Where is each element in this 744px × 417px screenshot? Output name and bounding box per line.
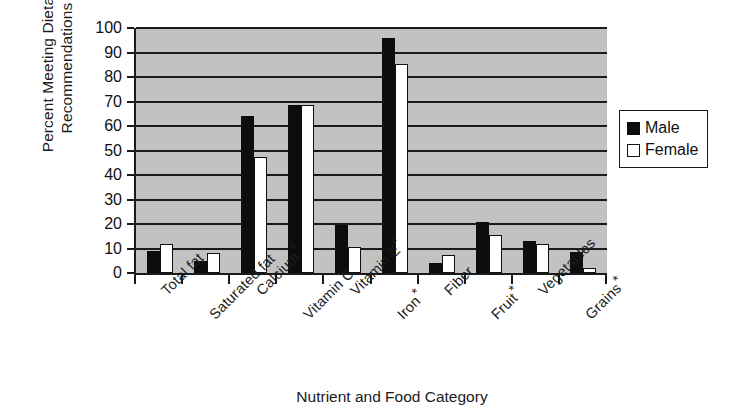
- legend-label-female: Female: [645, 142, 698, 158]
- gridline-20: [136, 223, 607, 225]
- y-tick-label-50: 50: [78, 143, 122, 159]
- x-tick-mark-6: [417, 275, 419, 284]
- bar-female-1: [207, 253, 220, 273]
- y-tick-label-100: 100: [78, 20, 122, 36]
- x-category-label-7: Fruit*: [488, 286, 525, 323]
- legend-item-female[interactable]: Female: [627, 139, 698, 161]
- bar-female-6: [442, 255, 455, 273]
- y-tick-label-40: 40: [78, 167, 122, 183]
- y-tick-label-20: 20: [78, 216, 122, 232]
- bar-female-3: [301, 105, 314, 273]
- gridline-80: [136, 76, 607, 78]
- chart-legend: Male Female: [619, 110, 708, 168]
- x-tick-mark-4: [322, 275, 324, 284]
- y-tick-mark-90: [127, 52, 134, 54]
- gridline-90: [136, 52, 607, 54]
- x-category-label-5: Iron*: [394, 289, 428, 323]
- legend-swatch-female-icon: [627, 144, 640, 157]
- x-tick-mark-0: [134, 275, 136, 284]
- bar-male-6: [429, 263, 442, 273]
- gridline-30: [136, 199, 607, 201]
- bar-female-7: [489, 235, 502, 273]
- y-tick-mark-30: [127, 199, 134, 201]
- gridline-50: [136, 150, 607, 152]
- gridline-70: [136, 101, 607, 103]
- gridline-40: [136, 174, 607, 176]
- y-tick-label-10: 10: [78, 241, 122, 257]
- x-tick-mark-2: [228, 275, 230, 284]
- y-tick-label-90: 90: [78, 45, 122, 61]
- bar-male-2: [241, 116, 254, 273]
- x-tick-mark-10: [605, 275, 607, 284]
- legend-swatch-male-icon: [627, 122, 640, 135]
- y-tick-mark-100: [127, 27, 134, 29]
- y-tick-mark-0: [127, 272, 134, 274]
- y-tick-label-60: 60: [78, 118, 122, 134]
- gridline-100: [136, 27, 607, 29]
- gridline-60: [136, 125, 607, 127]
- y-tick-mark-70: [127, 101, 134, 103]
- y-tick-mark-20: [127, 223, 134, 225]
- y-tick-label-70: 70: [78, 94, 122, 110]
- y-tick-label-0: 0: [78, 265, 122, 281]
- plot-area: [134, 28, 607, 275]
- y-tick-label-80: 80: [78, 69, 122, 85]
- y-tick-mark-10: [127, 248, 134, 250]
- y-tick-mark-80: [127, 76, 134, 78]
- legend-label-male: Male: [645, 120, 680, 136]
- bar-male-0: [147, 251, 160, 273]
- bar-male-7: [476, 222, 489, 273]
- x-axis-title: Nutrient and Food Category: [0, 388, 744, 406]
- y-tick-mark-40: [127, 174, 134, 176]
- chart-page: Percent Meeting Dietary Recommendations …: [0, 0, 744, 417]
- bar-male-8: [523, 241, 536, 273]
- bar-female-0: [160, 244, 173, 273]
- legend-item-male[interactable]: Male: [627, 117, 698, 139]
- y-tick-mark-60: [127, 125, 134, 127]
- y-tick-label-30: 30: [78, 192, 122, 208]
- bar-female-8: [536, 244, 549, 273]
- y-tick-mark-50: [127, 150, 134, 152]
- y-axis-title: Percent Meeting Dietary Recommendations: [39, 0, 77, 152]
- bar-female-9: [583, 268, 596, 273]
